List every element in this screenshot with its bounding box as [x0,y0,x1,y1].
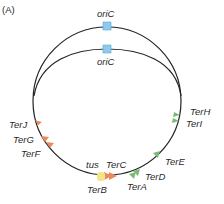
tere-marker-icon [153,151,160,158]
teri-label: TerI [186,118,202,129]
tus-gene-marker [97,172,105,181]
terc-label: TerC [106,159,126,170]
tere-label: TerE [165,156,185,167]
terh-label: TerH [190,106,210,117]
terd-label: TerD [145,171,165,182]
replication-termination-diagram: (A) oriC oriC TerJ TerG TerF TerB TerC t… [0,0,224,204]
tera-marker-icon [129,172,136,179]
oric-inner-label: oriC [97,56,115,67]
oric-outer-marker [103,22,111,30]
panel-label: (A) [2,4,15,15]
tus-label: tus [86,159,99,170]
terb-label: TerB [87,184,107,195]
oric-inner-marker [103,45,111,53]
tera-label: TerA [127,181,147,192]
terg-label: TerG [13,134,34,145]
terc-marker-icon [109,172,117,180]
terf-label: TerF [21,148,41,159]
terg-marker-icon [41,136,49,142]
oric-outer-label: oriC [97,8,115,19]
orange-ter-markers [34,120,117,180]
terj-label: TerJ [9,119,27,130]
